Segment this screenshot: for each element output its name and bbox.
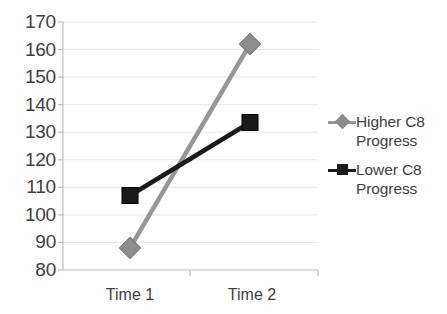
series-line bbox=[130, 44, 250, 248]
data-point-marker bbox=[242, 115, 258, 131]
legend-label-line-2: Progress bbox=[356, 179, 422, 198]
legend-key-lower-c8-progress bbox=[328, 161, 356, 180]
x-axis-ticks bbox=[190, 270, 318, 276]
x-tick-label-time-2: Time 2 bbox=[228, 286, 276, 304]
legend-entry-lower-c8-progress: Lower C8 Progress bbox=[328, 160, 447, 198]
data-point-marker bbox=[239, 33, 260, 54]
y-tick-label: 140 bbox=[6, 95, 56, 114]
chart-legend: Higher C8 Progress Lower C8 Progress bbox=[328, 112, 447, 208]
legend-label-line-1: Lower C8 bbox=[356, 161, 422, 178]
diamond-marker-icon bbox=[335, 114, 351, 130]
legend-label-line-2: Progress bbox=[356, 131, 425, 150]
y-tick-label: 80 bbox=[6, 260, 56, 279]
x-axis-labels: Time 1 Time 2 bbox=[0, 286, 447, 312]
series-higher-c8-progress bbox=[119, 33, 260, 258]
y-tick-label: 160 bbox=[6, 40, 56, 59]
x-tick-label-time-1: Time 1 bbox=[106, 286, 154, 304]
y-tick-label: 150 bbox=[6, 67, 56, 86]
line-chart: 170 160 150 140 130 120 110 100 90 80 Ti… bbox=[0, 0, 447, 314]
y-axis-labels: 170 160 150 140 130 120 110 100 90 80 bbox=[6, 0, 56, 314]
data-point-marker bbox=[122, 188, 138, 204]
series-lower-c8-progress bbox=[122, 115, 258, 204]
legend-label-line-1: Higher C8 bbox=[356, 113, 425, 130]
data-point-marker bbox=[119, 237, 140, 258]
legend-key-higher-c8-progress bbox=[328, 113, 356, 132]
legend-label-higher-c8-progress: Higher C8 Progress bbox=[356, 112, 425, 150]
legend-label-lower-c8-progress: Lower C8 Progress bbox=[356, 160, 422, 198]
y-axis-ticks bbox=[58, 22, 63, 270]
y-tick-label: 120 bbox=[6, 150, 56, 169]
gridlines bbox=[63, 22, 318, 242]
y-tick-label: 90 bbox=[6, 232, 56, 251]
legend-entry-higher-c8-progress: Higher C8 Progress bbox=[328, 112, 447, 150]
y-tick-label: 130 bbox=[6, 122, 56, 141]
y-tick-label: 170 bbox=[6, 12, 56, 31]
y-tick-label: 110 bbox=[6, 177, 56, 196]
y-tick-label: 100 bbox=[6, 205, 56, 224]
series-line bbox=[130, 123, 250, 196]
square-marker-icon bbox=[337, 164, 348, 175]
